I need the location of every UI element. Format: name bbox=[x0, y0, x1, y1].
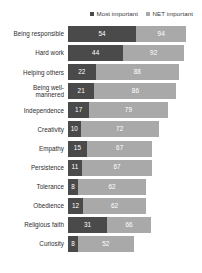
bar-value-most-important: 15 bbox=[74, 145, 81, 151]
bar-segment-net-important[interactable]: 79 bbox=[89, 102, 167, 118]
bar-value-net-important: 66 bbox=[125, 222, 132, 228]
bar-segment-net-important[interactable]: 86 bbox=[94, 83, 176, 99]
bar-segment-most-important[interactable]: 21 bbox=[68, 83, 94, 99]
chart-legend: Most important NET important bbox=[0, 0, 202, 20]
bar-value-most-important: 31 bbox=[84, 222, 91, 228]
category-label: Religious faith bbox=[2, 221, 68, 228]
bar-area: 862 bbox=[68, 179, 202, 195]
bar-area: 4492 bbox=[68, 45, 202, 61]
chart-plot-area: Being responsible5494Hard work4492Helpin… bbox=[0, 26, 202, 252]
stacked-bar[interactable]: 1072 bbox=[68, 121, 159, 137]
category-label-line: Hard work bbox=[35, 49, 64, 56]
bar-segment-most-important[interactable]: 31 bbox=[68, 217, 107, 233]
bar-area: 1779 bbox=[68, 102, 202, 118]
bar-segment-most-important[interactable]: 11 bbox=[68, 160, 82, 176]
category-label-line: Being responsible bbox=[14, 30, 64, 37]
category-label: Being responsible bbox=[2, 30, 68, 37]
bar-segment-most-important[interactable]: 15 bbox=[68, 141, 87, 157]
bar-segment-net-important[interactable]: 62 bbox=[83, 198, 146, 214]
bar-value-net-important: 67 bbox=[116, 145, 123, 151]
chart-row: Curiosity852 bbox=[2, 236, 202, 252]
bar-segment-most-important[interactable]: 12 bbox=[68, 198, 83, 214]
category-label-line: Being well- bbox=[33, 84, 64, 91]
chart-row: Creativity1072 bbox=[2, 121, 202, 137]
bar-segment-most-important[interactable]: 17 bbox=[68, 102, 89, 118]
square-marker-icon bbox=[90, 12, 94, 16]
stacked-bar[interactable]: 1779 bbox=[68, 102, 168, 118]
category-label-line: Curiosity bbox=[39, 240, 64, 247]
bar-area: 5494 bbox=[68, 26, 202, 42]
bar-segment-net-important[interactable]: 66 bbox=[107, 217, 151, 233]
bar-segment-most-important[interactable]: 10 bbox=[68, 121, 81, 137]
category-label: Helping others bbox=[2, 69, 68, 76]
chart-row: Obedience1262 bbox=[2, 198, 202, 214]
bar-value-net-important: 86 bbox=[132, 88, 139, 94]
bar-area: 3166 bbox=[68, 217, 202, 233]
category-label: Curiosity bbox=[2, 240, 68, 247]
bar-area: 852 bbox=[68, 236, 202, 252]
category-label-line: Creativity bbox=[38, 126, 64, 133]
bar-value-net-important: 88 bbox=[134, 69, 141, 75]
chart-row: Helping others2288 bbox=[2, 64, 202, 80]
category-label-line: Empathy bbox=[39, 145, 64, 152]
legend-item-label: Most important bbox=[96, 11, 138, 17]
stacked-bar[interactable]: 5494 bbox=[68, 26, 186, 42]
bar-value-most-important: 22 bbox=[78, 69, 85, 75]
category-label-line: Independence bbox=[24, 107, 64, 114]
category-label: Empathy bbox=[2, 145, 68, 152]
stacked-bar[interactable]: 1167 bbox=[68, 160, 152, 176]
stacked-bar[interactable]: 852 bbox=[68, 236, 134, 252]
stacked-bar[interactable]: 3166 bbox=[68, 217, 151, 233]
bar-value-net-important: 62 bbox=[108, 184, 115, 190]
chart-row: Empathy1567 bbox=[2, 141, 202, 157]
chart-row: Being responsible5494 bbox=[2, 26, 202, 42]
bar-segment-net-important[interactable]: 67 bbox=[87, 141, 153, 157]
bar-chart: Most important NET important Being respo… bbox=[0, 0, 202, 273]
bar-segment-net-important[interactable]: 88 bbox=[96, 64, 179, 80]
bar-value-most-important: 11 bbox=[72, 164, 79, 170]
chart-row: Tolerance862 bbox=[2, 179, 202, 195]
bar-value-net-important: 79 bbox=[125, 107, 132, 113]
square-marker-icon bbox=[146, 12, 150, 16]
category-label-line: Tolerance bbox=[37, 183, 64, 190]
bar-segment-most-important[interactable]: 8 bbox=[68, 179, 78, 195]
bar-value-net-important: 67 bbox=[114, 164, 121, 170]
stacked-bar[interactable]: 4492 bbox=[68, 45, 184, 61]
category-label: Being well-mannered bbox=[2, 84, 68, 98]
bar-segment-most-important[interactable]: 8 bbox=[68, 236, 78, 252]
bar-area: 2186 bbox=[68, 83, 202, 99]
stacked-bar[interactable]: 2186 bbox=[68, 83, 176, 99]
category-label: Tolerance bbox=[2, 183, 68, 190]
bar-value-net-important: 62 bbox=[111, 203, 118, 209]
stacked-bar[interactable]: 1567 bbox=[68, 141, 152, 157]
bar-segment-net-important[interactable]: 92 bbox=[123, 45, 183, 61]
category-label-line: Religious faith bbox=[24, 221, 64, 228]
bar-value-most-important: 12 bbox=[72, 203, 79, 209]
bar-area: 1262 bbox=[68, 198, 202, 214]
category-label: Persistence bbox=[2, 164, 68, 171]
category-label: Obedience bbox=[2, 202, 68, 209]
stacked-bar[interactable]: 1262 bbox=[68, 198, 146, 214]
category-label-line: Persistence bbox=[31, 164, 64, 171]
bar-segment-most-important[interactable]: 54 bbox=[68, 26, 136, 42]
stacked-bar[interactable]: 2288 bbox=[68, 64, 179, 80]
bar-segment-net-important[interactable]: 72 bbox=[81, 121, 159, 137]
category-label-line: mannered bbox=[2, 91, 64, 98]
bar-value-net-important: 72 bbox=[116, 126, 123, 132]
bar-segment-net-important[interactable]: 67 bbox=[82, 160, 153, 176]
bar-value-most-important: 44 bbox=[92, 50, 99, 56]
bar-segment-net-important[interactable]: 62 bbox=[78, 179, 146, 195]
category-label: Creativity bbox=[2, 126, 68, 133]
bar-value-net-important: 94 bbox=[158, 31, 165, 37]
bar-area: 1167 bbox=[68, 160, 202, 176]
chart-row: Hard work4492 bbox=[2, 45, 202, 61]
bar-segment-most-important[interactable]: 22 bbox=[68, 64, 96, 80]
category-label-line: Helping others bbox=[23, 69, 64, 76]
bar-value-most-important: 8 bbox=[71, 241, 75, 247]
stacked-bar[interactable]: 862 bbox=[68, 179, 146, 195]
bar-segment-most-important[interactable]: 44 bbox=[68, 45, 123, 61]
bar-segment-net-important[interactable]: 52 bbox=[78, 236, 133, 252]
bar-segment-net-important[interactable]: 94 bbox=[136, 26, 186, 42]
category-label: Hard work bbox=[2, 49, 68, 56]
bar-area: 1567 bbox=[68, 141, 202, 157]
